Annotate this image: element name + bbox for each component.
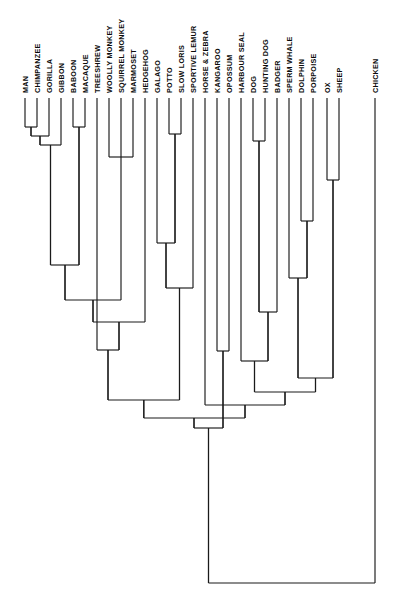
taxon-label-squirrel-monkey: SQUIRREL MONKEY — [117, 19, 126, 93]
taxon-label-macaque: MACAQUE — [81, 54, 90, 93]
taxon-label-woolly-monkey: WOOLLY MONKEY — [105, 25, 114, 93]
phylogenetic-tree-figure: MANCHIMPANZEEGORILLAGIBBONBABOONMACAQUET… — [0, 0, 402, 598]
tip-label-group: MANCHIMPANZEEGORILLAGIBBONBABOONMACAQUET… — [21, 19, 380, 93]
tree-canvas: MANCHIMPANZEEGORILLAGIBBONBABOONMACAQUET… — [0, 0, 402, 598]
taxon-label-baboon: BABOON — [69, 60, 78, 93]
taxon-label-ox: OX — [323, 82, 332, 93]
taxon-label-opossum: OPOSSUM — [225, 55, 234, 94]
taxon-label-treeshrew: TREESHREW — [93, 45, 102, 93]
taxon-label-potto: POTTO — [165, 67, 174, 93]
taxon-label-hunting-dog: HUNTING DOG — [261, 39, 270, 93]
tree-branch-group — [25, 98, 375, 583]
taxon-label-chicken: CHICKEN — [371, 59, 380, 94]
taxon-label-porpoise: PORPOISE — [309, 53, 318, 93]
taxon-label-gibbon: GIBBON — [57, 63, 66, 93]
taxon-label-dog: DOG — [249, 76, 258, 93]
taxon-label-hedgehog: HEDGEHOG — [141, 49, 150, 93]
taxon-label-dolphin: DOLPHIN — [297, 59, 306, 93]
taxon-label-sportive-lemur: SPORTIVE LEMUR — [189, 25, 198, 93]
taxon-label-marmoset: MARMOSET — [129, 49, 138, 93]
taxon-label-horse-zebra: HORSE & ZEBRA — [201, 30, 210, 93]
taxon-label-galago: GALAGO — [153, 60, 162, 93]
taxon-label-man: MAN — [21, 76, 30, 93]
taxon-label-harbour-seal: HARBOUR SEAL — [237, 32, 246, 93]
taxon-label-chimpanzee: CHIMPANZEE — [33, 44, 42, 94]
taxon-label-sheep: SHEEP — [335, 67, 344, 93]
taxon-label-sperm-whale: SPERM WHALE — [285, 36, 294, 93]
taxon-label-gorilla: GORILLA — [45, 59, 54, 93]
taxon-label-slow-loris: SLOW LORIS — [177, 45, 186, 93]
taxon-label-kangaroo: KANGAROO — [213, 48, 222, 93]
taxon-label-badger: BADGER — [273, 60, 282, 93]
